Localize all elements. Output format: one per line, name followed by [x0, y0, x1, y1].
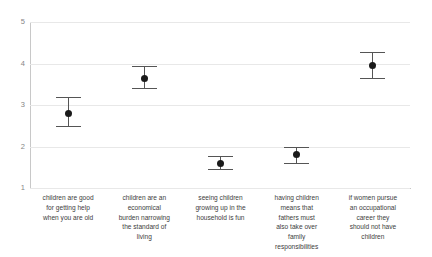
category-label-line: children are an	[109, 193, 179, 203]
y-axis-tick-label: 5	[6, 18, 25, 26]
error-bar-cap-lower	[284, 163, 309, 164]
category-label-line: burden narrowing	[109, 213, 179, 223]
data-point-marker	[369, 62, 376, 69]
gridline	[30, 188, 410, 189]
chart-container: 12345 children are goodfor getting helpw…	[0, 0, 432, 257]
category-label-line: growing up in the	[185, 203, 255, 213]
category-label-line: when you are old	[33, 213, 103, 223]
category-label-line: children	[338, 232, 408, 242]
error-bar-cap-lower	[360, 78, 385, 79]
x-axis-category-labels: children are goodfor getting helpwhen yo…	[30, 192, 411, 256]
error-bar-cap-upper	[360, 52, 385, 53]
gridline	[30, 105, 410, 106]
error-bar-cap-upper	[284, 147, 309, 148]
error-bar-cap-upper	[132, 66, 157, 67]
y-axis-tick-label: 1	[6, 184, 25, 192]
category-label-line: the standard of	[109, 222, 179, 232]
x-axis-category-label: seeing childrengrowing up in thehousehol…	[182, 192, 258, 256]
data-point-marker	[65, 110, 72, 117]
category-label-line: if women pursue	[338, 193, 408, 203]
error-bar-cap-upper	[56, 97, 81, 98]
category-label-line: having children	[262, 193, 332, 203]
plot-area	[30, 22, 410, 188]
category-label-line: seeing children	[185, 193, 255, 203]
category-label-line: living	[109, 232, 179, 242]
category-label-line: responsibilities	[262, 242, 332, 252]
data-point-marker	[217, 160, 224, 167]
category-label-line: family	[262, 232, 332, 242]
gridline	[30, 64, 410, 65]
y-axis-tick-label: 2	[6, 143, 25, 151]
y-axis-tick-label: 3	[6, 101, 25, 109]
category-label-line: economical	[109, 203, 179, 213]
gridline	[30, 147, 410, 148]
category-label-line: should not have	[338, 222, 408, 232]
data-point-marker	[141, 75, 148, 82]
category-label-line: children are good	[33, 193, 103, 203]
category-label-line: fathers must	[262, 213, 332, 223]
x-axis-category-label: children are aneconomicalburden narrowin…	[106, 192, 182, 256]
y-axis-tick-label: 4	[6, 60, 25, 68]
data-point-marker	[293, 151, 300, 158]
x-axis-category-label: children are goodfor getting helpwhen yo…	[30, 192, 106, 256]
category-label-line: for getting help	[33, 203, 103, 213]
x-axis-category-label: having childrenmeans thatfathers mustals…	[259, 192, 335, 256]
category-label-line: household is fun	[185, 213, 255, 223]
error-bar-cap-lower	[132, 88, 157, 89]
error-bar-cap-lower	[208, 169, 233, 170]
error-bar-cap-lower	[56, 126, 81, 127]
category-label-line: also take over	[262, 222, 332, 232]
category-label-line: an occupational	[338, 203, 408, 213]
x-axis-category-label: if women pursuean occupationalcareer the…	[335, 192, 411, 256]
category-label-line: means that	[262, 203, 332, 213]
category-label-line: career they	[338, 213, 408, 223]
error-bar-cap-upper	[208, 156, 233, 157]
gridline	[30, 22, 410, 23]
